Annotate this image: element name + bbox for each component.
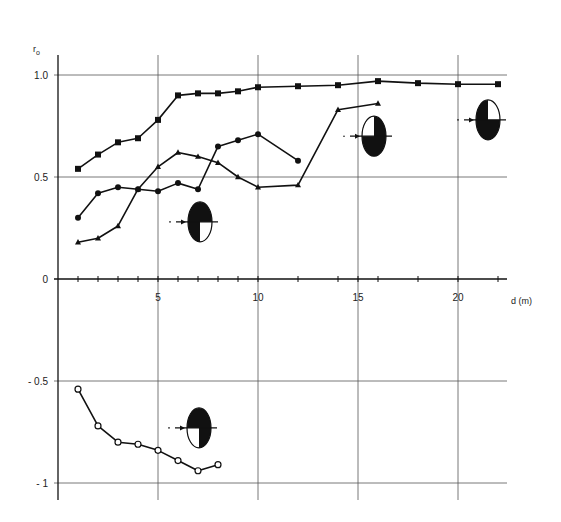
data-point-open-circle — [135, 441, 141, 447]
data-point-square — [75, 166, 81, 172]
arrow-dot — [457, 119, 459, 121]
data-point-open-circle — [115, 439, 121, 445]
ellipse-quadrant-icon — [169, 202, 218, 242]
data-point-square — [195, 90, 201, 96]
x-tick-label: 20 — [452, 292, 464, 303]
arrow-head-icon — [181, 219, 186, 224]
data-point-square — [335, 82, 341, 88]
arrow-head-icon — [180, 425, 185, 430]
arrow-head-icon — [355, 134, 360, 139]
series-2 — [75, 131, 301, 221]
arrow-head-icon — [469, 117, 474, 122]
data-point-square — [95, 152, 101, 158]
data-series — [75, 78, 501, 474]
data-point-square — [155, 117, 161, 123]
ellipse-quadrant-icon — [343, 116, 392, 156]
y-axis-title: ro — [33, 44, 40, 56]
y-tick-label: 1.0 — [34, 70, 48, 81]
data-point-open-circle — [75, 386, 81, 392]
data-point-open-circle — [175, 458, 181, 464]
ellipse-quadrant-icon — [168, 408, 217, 448]
data-point-open-circle — [195, 468, 201, 474]
data-point-circle — [235, 137, 241, 143]
data-point-circle — [175, 180, 181, 186]
series-1 — [75, 78, 501, 172]
x-tick-label: 5 — [155, 292, 161, 303]
y-tick-label: 0.5 — [34, 172, 48, 183]
data-point-circle — [295, 158, 301, 164]
data-point-square — [495, 81, 501, 87]
series-3 — [75, 100, 381, 244]
data-point-triangle — [175, 149, 181, 154]
data-point-circle — [195, 186, 201, 192]
data-point-square — [295, 83, 301, 89]
series-line — [78, 81, 498, 169]
axes — [54, 55, 507, 500]
data-point-circle — [115, 184, 121, 190]
data-point-square — [175, 92, 181, 98]
grid-lines — [54, 55, 507, 500]
data-point-square — [255, 84, 261, 90]
data-point-circle — [215, 143, 221, 149]
data-point-square — [415, 80, 421, 86]
data-point-square — [455, 81, 461, 87]
arrow-dot — [343, 135, 345, 137]
x-tick-label: 10 — [252, 292, 264, 303]
data-point-open-circle — [95, 423, 101, 429]
data-point-open-circle — [215, 462, 221, 468]
data-point-square — [115, 139, 121, 145]
data-point-triangle — [375, 100, 381, 105]
data-point-square — [135, 135, 141, 141]
data-point-circle — [95, 190, 101, 196]
y-tick-label: 0 — [42, 274, 48, 285]
data-point-circle — [255, 131, 261, 137]
data-point-circle — [155, 188, 161, 194]
line-chart: 51015201.00.50- 0.5- 1 ro d (m) — [0, 0, 561, 522]
data-point-square — [235, 88, 241, 94]
y-tick-label: - 0.5 — [28, 376, 48, 387]
arrow-dot — [168, 427, 170, 429]
data-point-square — [375, 78, 381, 84]
ellipse-icons — [168, 100, 506, 448]
arrow-dot — [169, 221, 171, 223]
data-point-circle — [75, 215, 81, 221]
x-axis-title: d (m) — [511, 296, 532, 306]
x-tick-label: 15 — [352, 292, 364, 303]
data-point-square — [215, 90, 221, 96]
y-tick-label: - 1 — [36, 478, 48, 489]
ellipse-quadrant-icon — [457, 100, 506, 140]
series-line — [78, 104, 378, 243]
data-point-open-circle — [155, 447, 161, 453]
